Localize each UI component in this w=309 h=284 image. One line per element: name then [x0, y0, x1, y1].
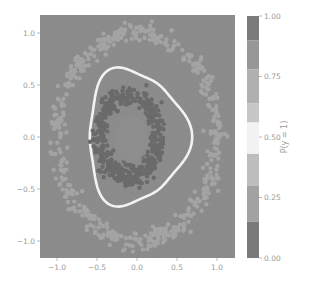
- y-tick-label: 0.0: [23, 133, 35, 142]
- colorbar-level: [247, 40, 259, 69]
- x-tick-label: 0.0: [131, 263, 143, 272]
- colorbar-tick-label: 1.00: [264, 12, 281, 21]
- colorbar-tick-label: 0.25: [264, 193, 281, 202]
- colorbar-tick-label: 0.50: [264, 133, 281, 142]
- plot-area: [40, 15, 235, 258]
- colorbar-level: [247, 122, 259, 153]
- colorbar-tick-label: 0.00: [264, 254, 281, 263]
- colorbar-tick-label: 0.75: [264, 72, 281, 81]
- x-tick-label: 0.5: [171, 263, 183, 272]
- x-tick-label: −0.5: [88, 263, 106, 272]
- colorbar-level: [247, 185, 259, 221]
- colorbar: [247, 16, 259, 258]
- colorbar-level: [247, 154, 259, 185]
- y-axis: 1.00.50.0−0.5−1.0: [17, 29, 40, 246]
- colorbar-level: [247, 222, 259, 258]
- x-tick-label: 1.0: [211, 263, 223, 272]
- y-tick-label: 1.0: [23, 29, 35, 38]
- colorbar-axis: 1.000.750.500.250.00: [259, 12, 281, 263]
- colorbar-level: [247, 16, 259, 40]
- y-tick-label: 0.5: [23, 81, 35, 90]
- x-tick-label: −1.0: [48, 263, 66, 272]
- probability-contour-chart: −1.0−0.50.00.51.0 1.00.50.0−0.5−1.0 1.00…: [0, 0, 309, 284]
- colorbar-level: [247, 69, 259, 103]
- y-tick-label: −0.5: [17, 185, 35, 194]
- colorbar-level: [247, 103, 259, 122]
- y-tick-label: −1.0: [17, 237, 35, 246]
- x-axis: −1.0−0.50.00.51.0: [48, 258, 223, 272]
- colorbar-label: P(y = 1): [280, 121, 289, 154]
